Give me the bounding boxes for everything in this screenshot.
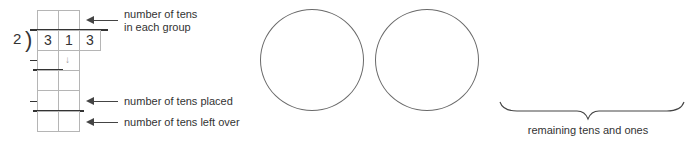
arrow-shaft: [92, 20, 118, 21]
arrow-shaft: [92, 101, 118, 102]
work-cell-r6-c2[interactable]: [58, 111, 80, 132]
work-cell-r6-c1[interactable]: [37, 111, 59, 132]
label-tens-each-group-line2: in each group: [124, 21, 191, 34]
group-circle-1[interactable]: [260, 9, 364, 111]
label-tens-placed-text: number of tens placed: [124, 95, 233, 108]
division-bracket: ): [25, 29, 32, 51]
dividend-digit-hundreds: 3: [37, 30, 59, 51]
minus-sign-1: [30, 60, 37, 61]
curly-brace-icon: [495, 96, 690, 122]
divisor: 2: [13, 31, 21, 47]
work-cell-r5-c1[interactable]: [37, 90, 59, 111]
work-cell-r3-c1[interactable]: [37, 50, 59, 71]
arrow-shaft: [92, 122, 118, 123]
work-cell-r4-c2[interactable]: [58, 70, 80, 91]
dividend-digit-ones: 3: [79, 30, 101, 51]
dividend-digit-tens: 1: [58, 30, 80, 51]
label-tens-left-over-text: number of tens left over: [124, 116, 240, 129]
quotient-cell-1[interactable]: [37, 10, 59, 31]
label-tens-each-group-line1: number of tens: [124, 8, 197, 21]
quotient-cell-2[interactable]: [58, 10, 80, 31]
work-cell-r4-c1[interactable]: [37, 70, 59, 91]
minus-sign-2: [30, 101, 37, 102]
carry-down-arrow-icon: ↓: [65, 55, 70, 65]
work-cell-r5-c2[interactable]: [58, 90, 80, 111]
group-circle-2[interactable]: [375, 9, 479, 111]
brace-caption: remaining tens and ones: [520, 124, 656, 137]
